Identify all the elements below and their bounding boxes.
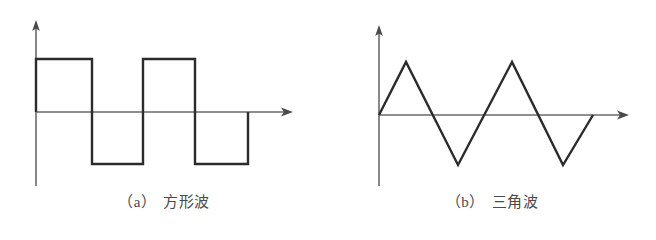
square-wave-plot xyxy=(0,0,328,186)
triangle-wave-axes xyxy=(375,25,629,186)
square-wave-axes xyxy=(32,20,293,186)
triangle-wave-plot xyxy=(328,0,656,186)
caption-square-wave: （a）方形波 xyxy=(0,188,328,216)
caption-index-b: （b） xyxy=(446,194,485,210)
caption-index-a: （a） xyxy=(118,194,156,210)
figure-root: （a）方形波 （b）三角波 xyxy=(0,0,656,240)
caption-label-square-wave: 方形波 xyxy=(163,193,210,211)
panel-square-wave: （a）方形波 xyxy=(0,0,328,240)
caption-label-triangle-wave: 三角波 xyxy=(492,193,539,211)
triangle-wave-trace xyxy=(379,62,593,165)
panel-triangle-wave: （b）三角波 xyxy=(328,0,656,240)
caption-triangle-wave: （b）三角波 xyxy=(328,188,656,216)
